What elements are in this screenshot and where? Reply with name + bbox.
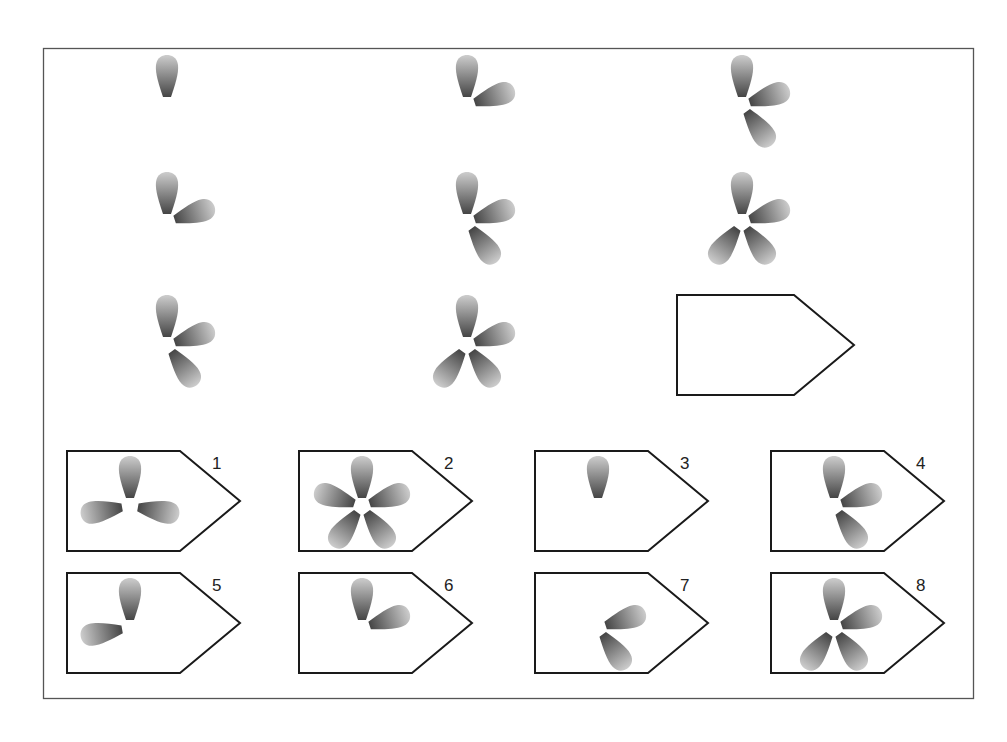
petal-icon [156,295,178,337]
matrix-grid [156,55,854,395]
petal-icon [456,172,478,214]
answer-option-6[interactable]: 6 [299,573,472,673]
grid-cell-r3c1 [156,295,218,392]
option-number: 6 [444,576,453,595]
petal-icon [429,345,472,392]
answer-option-5[interactable]: 5 [67,573,240,673]
answer-option-8[interactable]: 8 [771,573,944,675]
petal-icon [471,79,518,113]
grid-cell-r1c2 [456,55,518,113]
answer-option-7[interactable]: 7 [535,573,708,675]
answer-option-1[interactable]: 1 [67,451,240,551]
answer-options: 12345678 [67,451,944,675]
option-number: 7 [680,576,689,595]
petal-icon [463,345,506,392]
petal-icon [456,295,478,337]
answer-option-3[interactable]: 3 [535,451,708,551]
petal-icon [731,172,753,214]
petal-icon [704,222,747,269]
petal-icon [738,222,781,269]
option-number: 8 [916,576,925,595]
petal-icon [171,319,218,353]
grid-cell-r3c2 [429,295,518,392]
missing-cell-placeholder [677,295,854,395]
petal-icon [456,55,478,97]
grid-cell-r2c2 [456,172,518,269]
grid-cell-r1c1 [156,55,178,97]
petal-icon [471,319,518,353]
petal-icon [471,196,518,230]
grid-cell-r1c3 [731,55,793,152]
petal-icon [163,345,206,392]
petal-icon [731,55,753,97]
answer-option-2[interactable]: 2 [299,451,472,553]
petal-icon [463,222,506,269]
option-number: 3 [680,454,689,473]
grid-cell-r2c1 [156,172,218,230]
petal-icon [746,79,793,113]
option-number: 1 [212,454,221,473]
answer-option-4[interactable]: 4 [771,451,944,553]
option-number: 4 [916,454,925,473]
petal-icon [156,172,178,214]
option-number: 2 [444,454,453,473]
petal-icon [171,196,218,230]
grid-cell-r2c3 [704,172,793,269]
petal-icon [156,55,178,97]
puzzle-canvas: 12345678 [0,0,1007,742]
petal-icon [738,105,781,152]
petal-icon [746,196,793,230]
option-number: 5 [212,576,221,595]
